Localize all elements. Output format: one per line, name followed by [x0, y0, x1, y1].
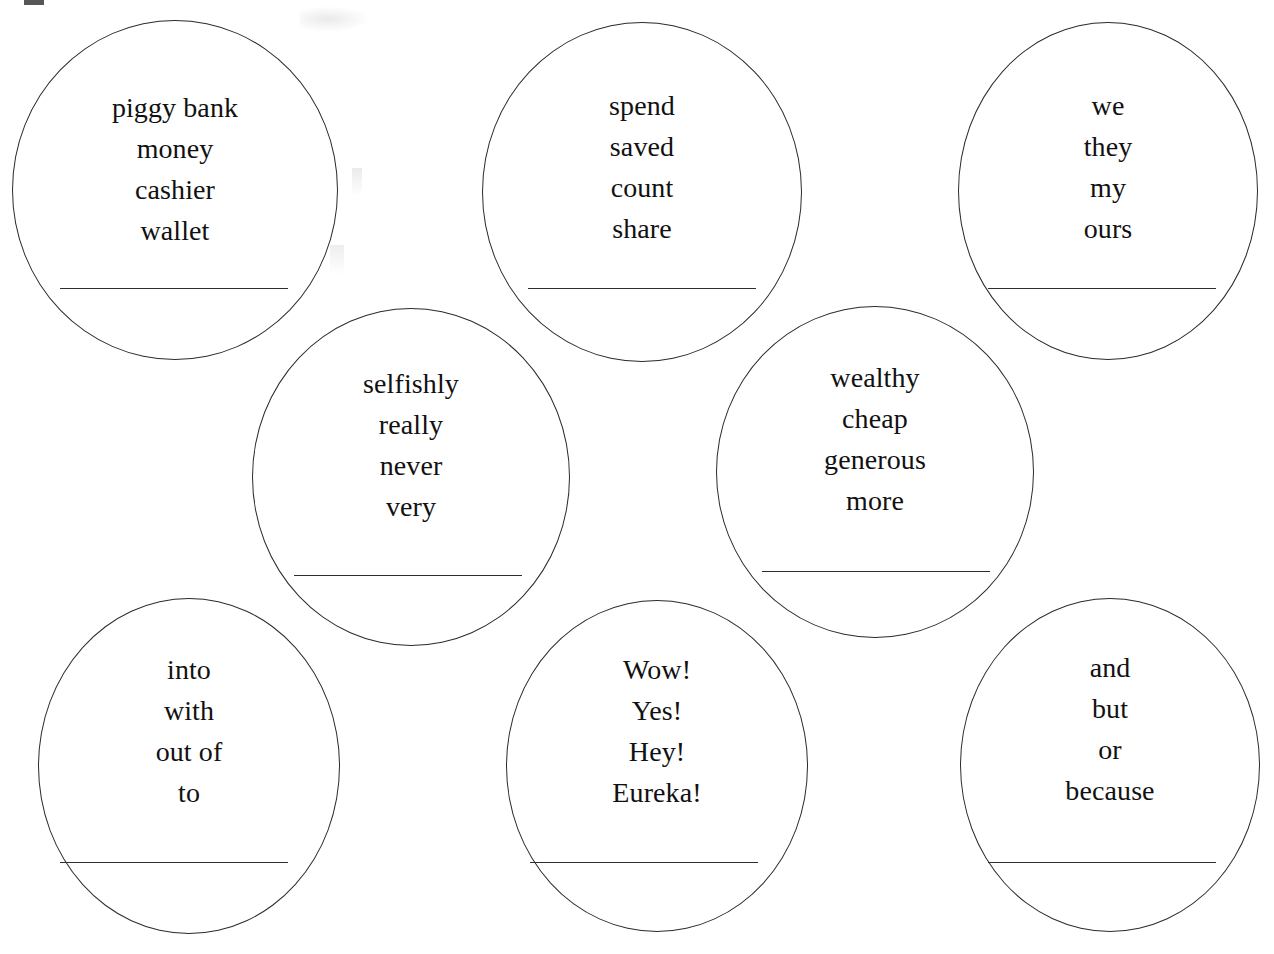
answer-blank-line-7[interactable] — [530, 862, 758, 863]
word-bubble-8[interactable]: and but or because — [960, 598, 1260, 932]
word-item: spend — [483, 85, 801, 126]
word-item: they — [959, 126, 1257, 167]
word-item: Yes! — [507, 690, 807, 731]
word-item: selfishly — [253, 363, 569, 404]
word-item: to — [39, 772, 339, 813]
word-item: really — [253, 404, 569, 445]
word-list-1: piggy bank money cashier wallet — [13, 87, 337, 251]
answer-blank-line-3[interactable] — [988, 288, 1216, 289]
word-item: wealthy — [717, 357, 1033, 398]
word-item: but — [961, 688, 1259, 729]
word-list-2: spend saved count share — [483, 85, 801, 249]
word-item: never — [253, 445, 569, 486]
word-item: wallet — [13, 210, 337, 251]
word-item: share — [483, 208, 801, 249]
word-bubble-3[interactable]: we they my ours — [958, 22, 1258, 360]
word-item: out of — [39, 731, 339, 772]
word-list-5: wealthy cheap generous more — [717, 357, 1033, 521]
word-list-7: Wow! Yes! Hey! Eureka! — [507, 649, 807, 813]
word-bubble-5[interactable]: wealthy cheap generous more — [716, 306, 1034, 638]
word-bubble-1[interactable]: piggy bank money cashier wallet — [12, 20, 338, 360]
word-item: ours — [959, 208, 1257, 249]
word-item: because — [961, 770, 1259, 811]
answer-blank-line-8[interactable] — [988, 862, 1216, 863]
answer-blank-line-2[interactable] — [528, 288, 756, 289]
word-item: very — [253, 486, 569, 527]
scan-artifact-streak-upper — [352, 168, 362, 196]
word-item: money — [13, 128, 337, 169]
word-list-6: into with out of to — [39, 649, 339, 813]
word-item: cashier — [13, 169, 337, 210]
answer-blank-line-1[interactable] — [60, 288, 288, 289]
answer-blank-line-4[interactable] — [294, 575, 522, 576]
word-bubble-7[interactable]: Wow! Yes! Hey! Eureka! — [506, 600, 808, 932]
word-item: saved — [483, 126, 801, 167]
word-item: we — [959, 85, 1257, 126]
word-bubble-4[interactable]: selfishly really never very — [252, 308, 570, 646]
answer-blank-line-5[interactable] — [762, 571, 990, 572]
worksheet-page: piggy bank money cashier wallet spend sa… — [0, 0, 1274, 954]
word-item: and — [961, 647, 1259, 688]
answer-blank-line-6[interactable] — [60, 862, 288, 863]
word-item: my — [959, 167, 1257, 208]
word-item: piggy bank — [13, 87, 337, 128]
word-item: or — [961, 729, 1259, 770]
word-bubble-6[interactable]: into with out of to — [38, 598, 340, 934]
scan-artifact-smudge — [300, 6, 370, 32]
word-item: generous — [717, 439, 1033, 480]
word-item: Hey! — [507, 731, 807, 772]
word-list-3: we they my ours — [959, 85, 1257, 249]
word-item: more — [717, 480, 1033, 521]
scan-artifact-mark — [24, 0, 44, 5]
word-item: count — [483, 167, 801, 208]
word-item: into — [39, 649, 339, 690]
word-item: with — [39, 690, 339, 731]
word-list-4: selfishly really never very — [253, 363, 569, 527]
word-item: Eureka! — [507, 772, 807, 813]
word-item: cheap — [717, 398, 1033, 439]
word-bubble-2[interactable]: spend saved count share — [482, 22, 802, 362]
word-item: Wow! — [507, 649, 807, 690]
word-list-8: and but or because — [961, 647, 1259, 811]
